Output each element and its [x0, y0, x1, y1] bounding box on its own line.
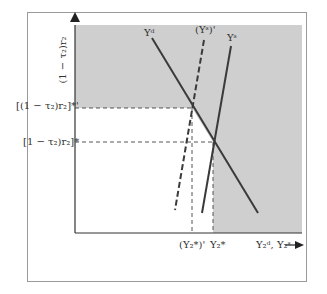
y-axis-arrow-icon — [70, 12, 80, 22]
demand-curve-label: Yᵈ — [144, 28, 155, 38]
y-axis-label: (1 − τ₂)r₂ — [55, 25, 69, 95]
upper-rate-label: [(1 − τ₂)r₂]*' — [16, 101, 79, 111]
supply-curve-label: Yˢ — [227, 33, 237, 43]
lower-rate-label: [1 − τ₂)r₂]* — [23, 137, 79, 147]
shifted-output-label: (Y₂*)' — [179, 240, 205, 250]
shifted-supply-curve-label: (Yˢ)' — [195, 25, 216, 35]
x-axis-label: Y₂ᵈ, Y₂ˢ — [256, 240, 291, 250]
output-label: Y₂* — [210, 240, 226, 250]
